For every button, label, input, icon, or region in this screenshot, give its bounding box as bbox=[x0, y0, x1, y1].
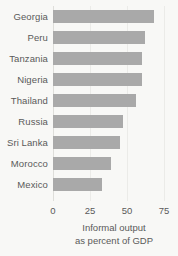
category-label: Sri Lanka bbox=[0, 137, 48, 148]
bar-chart: GeorgiaPeruTanzaniaNigeriaThailandRussia… bbox=[0, 0, 178, 256]
bar bbox=[53, 31, 145, 44]
bar-row bbox=[53, 132, 164, 153]
bar-row bbox=[53, 111, 164, 132]
x-tick-label: 50 bbox=[115, 205, 139, 216]
category-label: Tanzania bbox=[0, 53, 48, 64]
gridline bbox=[164, 6, 165, 201]
bar-row bbox=[53, 69, 164, 90]
bar bbox=[53, 157, 111, 170]
category-label: Thailand bbox=[0, 95, 48, 106]
bar-row bbox=[53, 27, 164, 48]
bar bbox=[53, 10, 154, 23]
bar bbox=[53, 178, 102, 191]
x-tick-label: 75 bbox=[152, 205, 176, 216]
category-label: Mexico bbox=[0, 179, 48, 190]
bar-row bbox=[53, 153, 164, 174]
bar bbox=[53, 115, 123, 128]
category-label: Russia bbox=[0, 116, 48, 127]
bar bbox=[53, 136, 120, 149]
bar-row bbox=[53, 174, 164, 195]
x-tick-label: 25 bbox=[78, 205, 102, 216]
bar-row bbox=[53, 6, 164, 27]
category-label: Morocco bbox=[0, 158, 48, 169]
x-tick-label: 0 bbox=[41, 205, 65, 216]
bar bbox=[53, 52, 142, 65]
x-axis-title: Informal output as percent of GDP bbox=[53, 222, 175, 247]
plot-area bbox=[53, 6, 164, 201]
category-label: Georgia bbox=[0, 11, 48, 22]
x-axis-title-line-1: Informal output bbox=[53, 222, 175, 235]
bar bbox=[53, 94, 136, 107]
x-axis-title-line-2: as percent of GDP bbox=[53, 235, 175, 248]
bar-row bbox=[53, 48, 164, 69]
category-label: Peru bbox=[0, 32, 48, 43]
bar-row bbox=[53, 90, 164, 111]
bar bbox=[53, 73, 142, 86]
category-label: Nigeria bbox=[0, 74, 48, 85]
